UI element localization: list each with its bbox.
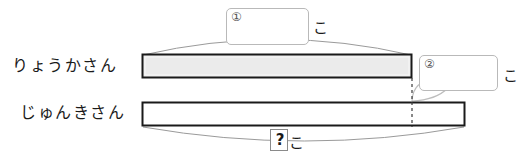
unit-label-two: こ bbox=[503, 64, 518, 85]
tape-diagram-figure: りょうかさん じゅんきさん ① こ ② こ ? こ bbox=[0, 0, 531, 160]
unit-label-one: こ bbox=[313, 16, 328, 37]
question-mark: ? bbox=[271, 130, 289, 152]
circled-number-two-icon: ② bbox=[424, 58, 435, 70]
bar-junki bbox=[143, 103, 465, 126]
row-label-junki: じゅんきさん bbox=[20, 99, 125, 123]
bar-ryouka bbox=[143, 55, 412, 78]
unknown-value-box[interactable]: ? bbox=[270, 129, 288, 151]
answer-box-two[interactable]: ② bbox=[419, 55, 498, 91]
answer-box-one[interactable]: ① bbox=[226, 8, 309, 45]
row-label-ryouka: りょうかさん bbox=[12, 52, 117, 76]
circled-number-one-icon: ① bbox=[231, 11, 242, 23]
unit-label-answer: こ bbox=[289, 131, 304, 152]
